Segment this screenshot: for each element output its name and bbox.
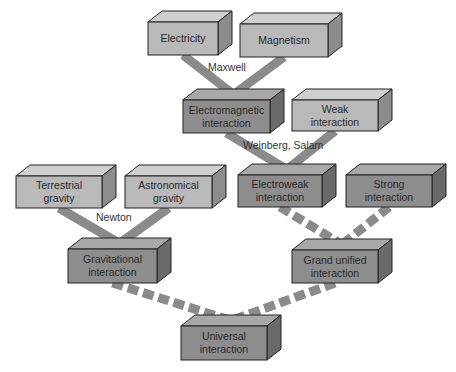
box-label-electricity: Electricity <box>148 22 218 55</box>
box-label-strong: Stronginteraction <box>346 175 432 207</box>
box-label-electroweak: Electroweakinteraction <box>238 175 322 207</box>
box-label-universal: Universalinteraction <box>181 326 267 360</box>
connector-label: Maxwell <box>208 61 246 73</box>
box-label-astronomical: Astronomicalgravity <box>125 176 212 208</box>
box-label-weak: Weakinteraction <box>292 100 378 131</box>
box-label-terrestrial: Terrestrialgravity <box>16 176 102 208</box>
box-label-gravitational: Gravitationalinteraction <box>68 249 157 283</box>
connector-label: Newton <box>96 211 132 223</box>
connector-label: Weinberg, Salam <box>243 139 323 151</box>
box-label-magnetism: Magnetism <box>240 24 328 57</box>
box-label-grand_unified: Grand unified interaction <box>292 250 378 283</box>
box-label-electromagnetic: Electromagneticinteraction <box>183 100 270 133</box>
